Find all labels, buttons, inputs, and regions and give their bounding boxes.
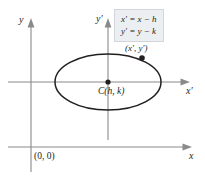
origin-label: (0, 0) (34, 152, 55, 162)
ellipse-point-label: (x′, y′) (125, 44, 147, 53)
y-prime-axis-label: y′ (96, 14, 103, 24)
center-point-dot (105, 79, 110, 84)
center-label: C(h, k) (98, 87, 124, 97)
x-prime-axis-label: x′ (186, 86, 193, 96)
y-axis-label: y (19, 15, 23, 25)
ellipse-point-dot (139, 55, 145, 61)
outer-y-axis-arrowhead (28, 18, 35, 28)
equation-x-prime: x′ = x − h (121, 13, 157, 25)
y-prime-axis-arrowhead (105, 18, 112, 28)
transformation-equations-callout: x′ = x − h y′ = y − k (114, 9, 164, 42)
equation-y-prime: y′ = y − k (121, 25, 157, 37)
x-axis-label: x (189, 151, 193, 161)
translated-y-prime-axis (105, 18, 112, 140)
outer-y-axis (28, 18, 35, 172)
translation-of-axes-figure: x′ = x − h y′ = y − k y y′ x′ x (0, 0) C… (0, 0, 205, 178)
outer-x-axis (8, 144, 192, 151)
translated-x-prime-axis (8, 79, 190, 86)
